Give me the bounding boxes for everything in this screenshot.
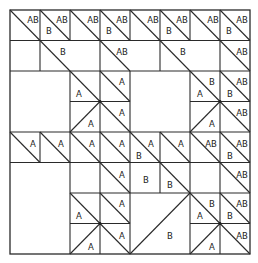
cell-label: AB bbox=[236, 139, 248, 149]
cell-label: B bbox=[60, 47, 66, 57]
cell-label: A bbox=[88, 242, 94, 252]
cell-label: AB bbox=[236, 108, 248, 118]
cell-label: A bbox=[76, 89, 82, 99]
cell-label: B bbox=[46, 26, 52, 36]
cell-label: AB bbox=[236, 170, 248, 180]
cell-label: AB bbox=[236, 15, 248, 25]
cell-label: A bbox=[58, 139, 64, 149]
cell-label: A bbox=[209, 119, 215, 129]
cell-label: B bbox=[227, 89, 233, 99]
cell-label: AB bbox=[116, 15, 128, 25]
cell-label: A bbox=[209, 242, 215, 252]
cell-label: B bbox=[143, 175, 149, 185]
cell-label: A bbox=[119, 139, 125, 149]
cell-label: A bbox=[76, 211, 82, 221]
cell-label: B bbox=[226, 26, 232, 36]
cell-label: AB bbox=[205, 139, 217, 149]
cell-label: AB bbox=[116, 47, 128, 57]
cell-label: B bbox=[106, 26, 112, 36]
cell-label: B bbox=[227, 151, 233, 161]
cell-label: B bbox=[167, 180, 173, 190]
quilt-grid-diagram: ABABBABABBABABBABABBBABBABAAAABAABBAABAA… bbox=[0, 0, 258, 263]
cell-label: A bbox=[88, 119, 94, 129]
cell-label: AB bbox=[147, 15, 159, 25]
cell-label: B bbox=[166, 26, 172, 36]
cell-label: A bbox=[197, 89, 203, 99]
cell-labels: ABABBABABBABABBABABBBABBABAAAABAABBAABAA… bbox=[27, 15, 248, 252]
cell-label: AB bbox=[176, 15, 188, 25]
cell-label: A bbox=[89, 139, 95, 149]
cell-label: AB bbox=[236, 77, 248, 87]
cell-label: A bbox=[178, 139, 184, 149]
cell-label: AB bbox=[236, 199, 248, 209]
cell-label: A bbox=[197, 211, 203, 221]
cell-label: A bbox=[119, 77, 125, 87]
cell-label: AB bbox=[236, 231, 248, 241]
cell-label: AB bbox=[56, 15, 68, 25]
cell-label: A bbox=[119, 170, 125, 180]
cell-label: B bbox=[136, 151, 142, 161]
cell-label: AB bbox=[87, 15, 99, 25]
cell-label: B bbox=[167, 231, 173, 241]
cell-label: B bbox=[180, 47, 186, 57]
cell-label: B bbox=[227, 211, 233, 221]
cell-label: B bbox=[209, 77, 215, 87]
cell-label: AB bbox=[27, 15, 39, 25]
cell-label: B bbox=[209, 199, 215, 209]
cell-label: AB bbox=[236, 47, 248, 57]
cell-label: A bbox=[119, 108, 125, 118]
cell-label: A bbox=[30, 139, 36, 149]
cell-label: AB bbox=[207, 15, 219, 25]
cell-label: A bbox=[119, 199, 125, 209]
cell-label: A bbox=[119, 231, 125, 241]
cell-label: A bbox=[148, 139, 154, 149]
